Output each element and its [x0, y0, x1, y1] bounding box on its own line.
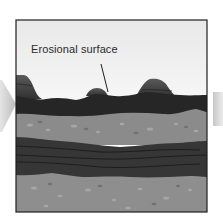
left-arrow-icon	[0, 80, 16, 132]
erosion-diagram: Erosional surface	[0, 0, 223, 222]
erosional-surface-label: Erosional surface	[31, 43, 118, 55]
right-arrow-icon	[213, 92, 223, 126]
diagram-canvas	[0, 0, 223, 222]
